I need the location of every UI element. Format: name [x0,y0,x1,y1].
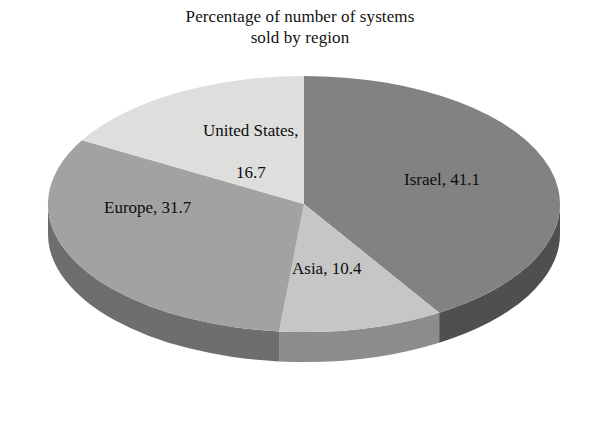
slice-label-united-states-line-1: United States, [203,121,298,140]
pie-chart-figure: Percentage of number of systems sold by … [0,0,600,425]
slice-label-israel: Israel, 41.1 [404,170,534,190]
slice-label-united-states: United States, 16.7 [170,99,306,204]
slice-label-united-states-line-2: 16.7 [236,163,266,182]
slice-label-europe: Europe, 31.7 [104,198,254,218]
slice-label-asia: Asia, 10.4 [292,259,422,279]
pie-plot-area: United States, 16.7 Israel, 41.1 Europe,… [0,0,600,425]
pie-svg [0,0,600,425]
